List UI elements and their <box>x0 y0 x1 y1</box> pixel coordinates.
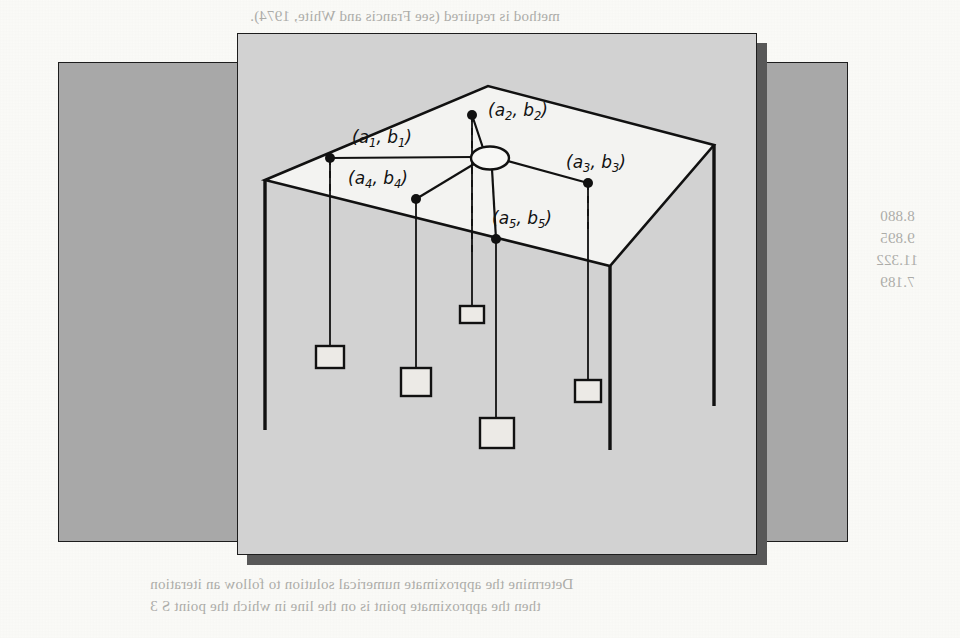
weight-5 <box>480 418 514 448</box>
anchor-point-4 <box>411 194 421 204</box>
ring-cord-1 <box>330 157 473 158</box>
anchor-point-1 <box>325 153 335 163</box>
anchor-point-2 <box>467 110 477 120</box>
anchor-point-3 <box>583 178 593 188</box>
weight-4 <box>401 368 431 396</box>
weight-2 <box>460 306 484 323</box>
anchor-point-5 <box>491 234 501 244</box>
weight-1 <box>316 346 344 368</box>
box-hanging-mass-diagram: (a1, b1)(a2, b2)(a3, b3)(a4, b4)(a5, b5) <box>0 0 960 638</box>
box-outline <box>265 86 714 450</box>
weight-3 <box>575 380 601 402</box>
center-ring-icon <box>471 147 509 170</box>
